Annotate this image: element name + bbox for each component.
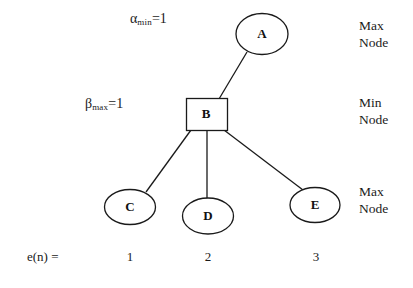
level-label-min-line2: Node [359, 112, 388, 129]
eval-row-label: e(n) = [27, 249, 59, 265]
beta-subscript: max [92, 102, 108, 112]
node-d[interactable]: D [183, 198, 234, 234]
alpha-subscript: min [137, 17, 152, 27]
level-label-max-top: Max Node [359, 18, 388, 52]
node-c[interactable]: C [105, 190, 156, 225]
beta-equals: =1 [108, 96, 123, 111]
level-label-max-bottom: Max Node [359, 184, 388, 218]
node-b[interactable]: B [187, 99, 228, 131]
level-label-max-bottom-line2: Node [359, 201, 388, 218]
level-label-max-top-line1: Max [359, 18, 388, 35]
eval-value-e: 3 [306, 249, 326, 265]
alpha-annotation: αmin=1 [130, 10, 167, 29]
edge-b-e [224, 130, 303, 190]
edge-a-b [219, 52, 247, 99]
level-label-min-line1: Min [359, 95, 388, 112]
level-label-max-bottom-line1: Max [359, 184, 388, 201]
beta-annotation: βmax=1 [85, 95, 123, 114]
node-a[interactable]: A [236, 14, 288, 55]
node-d-label: D [203, 208, 212, 223]
node-c-label: C [125, 199, 134, 214]
node-e-label: E [311, 197, 320, 212]
level-label-max-top-line2: Node [359, 35, 388, 52]
eval-value-c: 1 [120, 249, 140, 265]
alpha-equals: =1 [152, 11, 167, 26]
node-b-label: B [202, 106, 211, 121]
eval-value-d: 2 [198, 249, 218, 265]
node-e[interactable]: E [290, 188, 340, 223]
node-a-label: A [257, 26, 267, 41]
tree-graphic: A B C D E [0, 0, 413, 288]
diagram-canvas: A B C D E αmin=1 βmax=1 Max Node Min [0, 0, 413, 288]
level-label-min: Min Node [359, 95, 388, 129]
edge-b-c [146, 130, 191, 192]
